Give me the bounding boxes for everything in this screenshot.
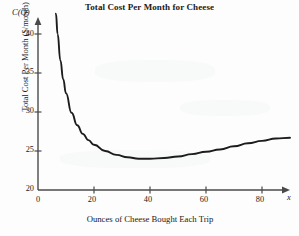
y-axis-arrow: [35, 17, 42, 25]
cost-curve: [56, 14, 290, 159]
x-axis-arrow: [282, 187, 290, 194]
plot-area: [0, 0, 299, 236]
cost-curve-figure: Total Cost Per Month for Cheese Total Co…: [0, 0, 299, 236]
axes: [35, 17, 290, 193]
